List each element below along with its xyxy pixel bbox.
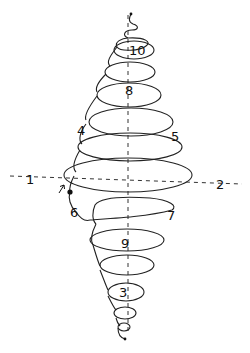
label-7: 7 bbox=[167, 208, 175, 223]
label-8: 8 bbox=[125, 83, 133, 98]
label-1: 1 bbox=[26, 172, 34, 187]
label-2: 2 bbox=[216, 177, 224, 192]
bottom-end-dot bbox=[124, 338, 127, 341]
start-dot bbox=[67, 189, 72, 194]
horizontal-axis bbox=[10, 176, 242, 184]
label-5: 5 bbox=[171, 129, 179, 144]
direction-arrow-icon bbox=[59, 185, 65, 193]
label-3: 3 bbox=[119, 285, 127, 300]
label-6: 6 bbox=[70, 205, 78, 220]
double-cone-spiral-diagram: 1 2 3 4 5 6 7 8 9 10 bbox=[0, 0, 250, 353]
label-4: 4 bbox=[77, 123, 85, 138]
label-9: 9 bbox=[121, 236, 129, 251]
label-10: 10 bbox=[129, 43, 146, 58]
top-end-dot bbox=[130, 13, 133, 16]
lower-spiral bbox=[69, 176, 174, 339]
